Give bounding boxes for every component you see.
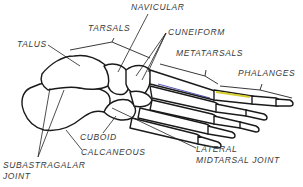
label-subastragalar: SUBASTRAGALAR	[3, 161, 85, 170]
phalanx-bone	[216, 104, 249, 116]
leader-cuneiform	[136, 33, 166, 76]
phalanx-bone	[214, 116, 243, 128]
cuneiform-bone	[130, 91, 152, 106]
phalanx-bone	[276, 99, 293, 106]
foot-skeleton-diagram: NAVICULAR TARSALS CUNEIFORM TALUS METATA…	[0, 0, 303, 187]
label-navicular: NAVICULAR	[131, 3, 185, 12]
talus-bone	[41, 55, 110, 90]
label-cuboid: CUBOID	[80, 133, 117, 142]
label-cuneiform: CUNEIFORM	[168, 28, 225, 37]
phalanx-bone	[246, 110, 267, 120]
label-subastragalar-joint: JOINT	[3, 172, 31, 181]
label-phalanges: PHALANGES	[238, 69, 295, 78]
leader-cuboid	[103, 116, 116, 133]
leader-cuneiform	[148, 33, 166, 72]
calcaneus-bone	[22, 83, 110, 130]
label-tarsals: TARSALS	[88, 24, 130, 33]
phalanx-bone	[240, 122, 259, 132]
label-calcaneous: CALCANEOUS	[81, 148, 146, 157]
phalanx-bone	[208, 126, 235, 138]
label-metatarsals: METATARSALS	[176, 49, 243, 58]
label-midtarsal-joint: MIDTARSAL JOINT	[196, 156, 280, 165]
label-lateral: LATERAL	[196, 145, 237, 154]
label-talus: TALUS	[17, 40, 47, 49]
